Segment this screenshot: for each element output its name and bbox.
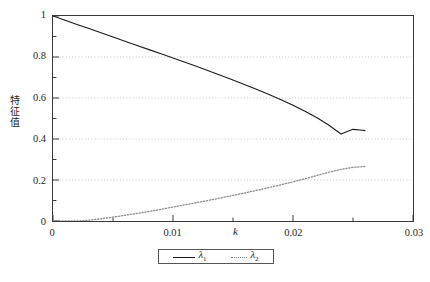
legend-line-solid-icon (173, 254, 195, 260)
series-line-λ2 (53, 166, 365, 221)
y-tick-label: 0.6 (18, 93, 46, 104)
plot-canvas (53, 16, 413, 221)
legend-label-lambda2: λ2 (250, 249, 258, 263)
legend-item-lambda1: λ1 (173, 249, 206, 263)
x-tick-label: 0.03 (405, 228, 423, 239)
chart-figure: 特征值 00.20.40.60.81 00.010.020.03 k λ1 λ2 (0, 0, 430, 282)
y-tick-label: 1 (18, 10, 46, 21)
legend: λ1 λ2 (158, 249, 274, 264)
plot-area (52, 15, 414, 222)
gridlines (53, 57, 413, 180)
y-tick-label: 0.4 (18, 134, 46, 145)
data-series (53, 16, 365, 221)
axis-ticks (53, 16, 413, 221)
y-tick-label: 0.8 (18, 51, 46, 62)
x-tick-label: 0 (49, 228, 54, 239)
x-tick-label: 0.01 (163, 228, 181, 239)
legend-line-dotted-icon (225, 254, 247, 260)
x-axis-title: k (233, 225, 238, 237)
legend-item-lambda2: λ2 (225, 249, 258, 263)
series-line-λ1 (53, 16, 365, 134)
y-tick-label: 0.2 (18, 175, 46, 186)
x-tick-label: 0.02 (284, 228, 302, 239)
y-tick-label: 0 (18, 217, 46, 228)
legend-label-lambda1: λ1 (198, 249, 206, 263)
